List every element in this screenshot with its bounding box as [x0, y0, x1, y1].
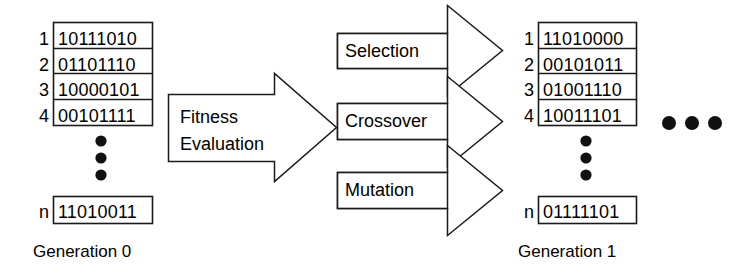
continuation-ellipsis-icon — [662, 116, 722, 130]
left-row-bits-1: 10111010 — [58, 30, 137, 48]
right-row-index-1: 1 — [516, 30, 534, 48]
left-row-index-1: 1 — [31, 30, 49, 48]
fitness-evaluation-label-line1: Fitness — [180, 106, 238, 128]
right-row-index-4: 4 — [516, 107, 534, 125]
left-row-bits-2: 01101110 — [58, 56, 136, 74]
right-row-bits-2: 00101011 — [543, 56, 623, 74]
left-row-bits-4: 00101111 — [58, 107, 136, 125]
left-row-index-2: 2 — [31, 56, 49, 74]
fitness-evaluation-label-line2: Evaluation — [180, 133, 264, 155]
right-population-ellipsis-icon — [580, 135, 591, 180]
selection-label: Selection — [345, 42, 419, 60]
right-row-bits-1: 11010000 — [543, 30, 623, 48]
left-population-caption: Generation 0 — [33, 243, 131, 260]
right-row-bits-4: 10011101 — [543, 107, 622, 125]
right-row-bits-n: 01111101 — [543, 203, 619, 221]
right-row-index-n: n — [516, 203, 534, 221]
right-row-bits-3: 01001110 — [543, 81, 622, 99]
right-row-index-3: 3 — [516, 81, 534, 99]
left-row-bits-3: 10000101 — [58, 81, 140, 99]
crossover-label: Crossover — [345, 112, 427, 130]
right-population-caption: Generation 1 — [518, 243, 616, 260]
genetic-algorithm-diagram: 1 10111010 2 01101110 3 10000101 4 00101… — [0, 0, 741, 276]
mutation-label: Mutation — [345, 181, 414, 199]
left-row-index-4: 4 — [31, 107, 49, 125]
left-population-ellipsis-icon — [95, 135, 106, 180]
left-row-index-n: n — [31, 203, 49, 221]
left-row-bits-n: 11010011 — [58, 203, 137, 221]
right-row-index-2: 2 — [516, 56, 534, 74]
left-row-index-3: 3 — [31, 81, 49, 99]
